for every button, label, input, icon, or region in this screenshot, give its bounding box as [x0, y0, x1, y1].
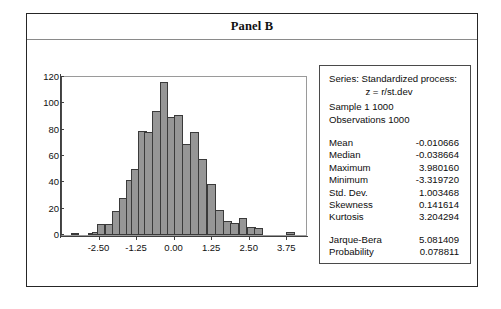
y-axis-tick-label: 100: [33, 97, 59, 108]
y-axis-tick-label: 20: [33, 202, 59, 213]
panel-body: 020406080100120 -2.50-1.250.001.252.503.…: [27, 40, 477, 286]
x-axis-tick-label: -1.25: [125, 242, 147, 253]
histogram-bar: [97, 224, 106, 235]
stat-row: Jarque-Bera5.081409: [329, 234, 461, 246]
y-axis-tick-label: 40: [33, 176, 59, 187]
stat-row: Mean-0.010666: [329, 137, 461, 149]
stat-row: Minimum-3.319720: [329, 174, 461, 186]
y-axis-tick-mark: [60, 155, 64, 156]
stat-value: -0.038664: [400, 149, 461, 161]
panel-frame: Panel B 020406080100120 -2.50-1.250.001.…: [26, 13, 478, 287]
stat-spacer: [329, 224, 461, 234]
page-title: Panel B: [231, 19, 274, 34]
stat-row: Kurtosis3.204294: [329, 211, 461, 223]
x-axis-tick-mark: [249, 236, 250, 240]
y-axis-tick-labels: 020406080100120: [31, 48, 59, 274]
y-axis-tick-mark: [60, 208, 64, 209]
y-axis-tick-mark: [60, 102, 64, 103]
x-axis-line: [60, 236, 308, 237]
y-axis-tick-mark: [60, 181, 64, 182]
stat-label: Median: [329, 149, 400, 161]
y-axis-tick-label: 60: [33, 150, 59, 161]
histogram-bar: [286, 232, 295, 235]
observations-count: Observations 1000: [329, 114, 461, 127]
x-axis-tick-label: 3.75: [277, 242, 296, 253]
stat-row: Probability0.078811: [329, 246, 461, 258]
stat-row: Maximum3.980160: [329, 162, 461, 174]
y-axis-tick-mark: [60, 234, 64, 235]
stat-label: Kurtosis: [329, 211, 400, 223]
stat-label: Skewness: [329, 199, 400, 211]
histogram-chart: 020406080100120 -2.50-1.250.001.252.503.…: [31, 48, 321, 274]
series-header: Series: Standardized process: z = r/st.d…: [329, 73, 461, 98]
histogram-bar: [207, 184, 216, 235]
stat-label: Jarque-Bera: [329, 234, 400, 246]
x-axis-tick-mark: [99, 236, 100, 240]
x-axis-tick-mark: [211, 236, 212, 240]
stat-label: Mean: [329, 137, 400, 149]
stat-value: 3.204294: [400, 211, 461, 223]
statistics-box: Series: Standardized process: z = r/st.d…: [319, 65, 471, 264]
stat-value: -3.319720: [400, 174, 461, 186]
stat-label: Minimum: [329, 174, 400, 186]
histogram-bar: [230, 223, 239, 235]
stat-row: Skewness0.141614: [329, 199, 461, 211]
stat-row: Median-0.038664: [329, 149, 461, 161]
y-axis-tick-label: 120: [33, 71, 59, 82]
panel-title-bar: Panel B: [27, 14, 477, 40]
x-axis-tick-label: -2.50: [88, 242, 110, 253]
x-axis-tick-mark: [286, 236, 287, 240]
sample-range: Sample 1 1000: [329, 101, 461, 114]
histogram-bar: [198, 159, 207, 235]
statistics-table: Mean-0.010666Median-0.038664Maximum3.980…: [329, 137, 461, 259]
stat-label: Std. Dev.: [329, 187, 400, 199]
y-axis-tick-label: 80: [33, 123, 59, 134]
x-axis-tick-label: 1.25: [202, 242, 221, 253]
x-axis-tick-mark: [174, 236, 175, 240]
y-axis-tick-label: 0: [33, 229, 59, 240]
y-axis-tick-mark: [60, 129, 64, 130]
stat-value: 0.141614: [400, 199, 461, 211]
histogram-bar: [71, 233, 80, 235]
stat-value: 5.081409: [400, 234, 461, 246]
y-axis-tick-mark: [60, 76, 64, 77]
stat-label: Probability: [329, 246, 400, 258]
series-title-line2: z = r/st.dev: [329, 86, 461, 99]
stat-value: 0.078811: [400, 246, 461, 258]
stat-value: 3.980160: [400, 162, 461, 174]
x-axis-tick-label: 2.50: [239, 242, 258, 253]
x-axis-tick-mark: [136, 236, 137, 240]
x-axis-tick-label: 0.00: [164, 242, 183, 253]
histogram-bar: [254, 228, 263, 235]
stat-value: 1.003468: [400, 187, 461, 199]
series-title-line1: Series: Standardized process:: [329, 73, 461, 86]
plot-area: [61, 76, 307, 236]
sample-info: Sample 1 1000 Observations 1000: [329, 101, 461, 126]
stat-row: Std. Dev.1.003468: [329, 187, 461, 199]
stat-value: -0.010666: [400, 137, 461, 149]
stat-label: Maximum: [329, 162, 400, 174]
histogram-bars: [62, 77, 306, 235]
